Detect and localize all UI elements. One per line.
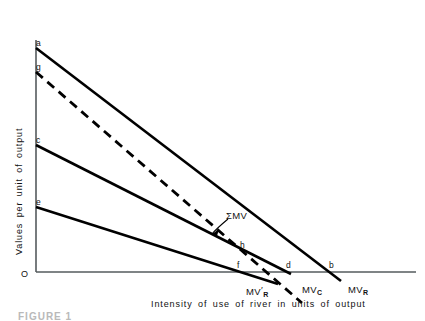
curve-label-mv-r-sub: R: [363, 289, 368, 296]
curve-label-mv-c-sub: C: [317, 289, 322, 296]
x-axis-title: Intensity of use of river in units of ou…: [151, 299, 366, 309]
point-label-b: b: [329, 261, 334, 270]
curve-label-mv-r-prime-base: MV: [246, 286, 261, 297]
curve-sum-mv: [36, 72, 302, 303]
point-label-g: g: [36, 63, 41, 72]
curve-label-mv-r-prime-sub: R: [263, 291, 268, 298]
figure-caption: FIGURE 1: [18, 311, 72, 321]
curve-label-mv-c-base: MV: [302, 284, 317, 295]
curve-label-mv-r: MVR: [348, 285, 369, 296]
curve-label-mv-r-prime: MV′R: [246, 285, 269, 298]
y-axis-title: Values per unit of output: [14, 128, 24, 255]
curve-label-mv-r-base: MV: [348, 284, 363, 295]
curve-mv-c: [36, 145, 291, 274]
figure-container: a g c e h f d b O ΣMV MV′R MVC MVR Value…: [0, 0, 425, 321]
point-label-e: e: [36, 198, 41, 207]
point-label-a: a: [36, 39, 41, 48]
economics-line-chart: [0, 0, 425, 321]
curve-label-mv-c: MVC: [302, 285, 323, 296]
point-label-d: d: [286, 261, 291, 270]
point-label-c: c: [36, 136, 40, 145]
curve-mv-r: [36, 48, 341, 281]
point-label-f: f: [237, 261, 240, 270]
origin-label: O: [21, 270, 28, 279]
point-label-h: h: [240, 241, 245, 250]
curve-label-sum-mv: ΣMV: [226, 211, 247, 221]
